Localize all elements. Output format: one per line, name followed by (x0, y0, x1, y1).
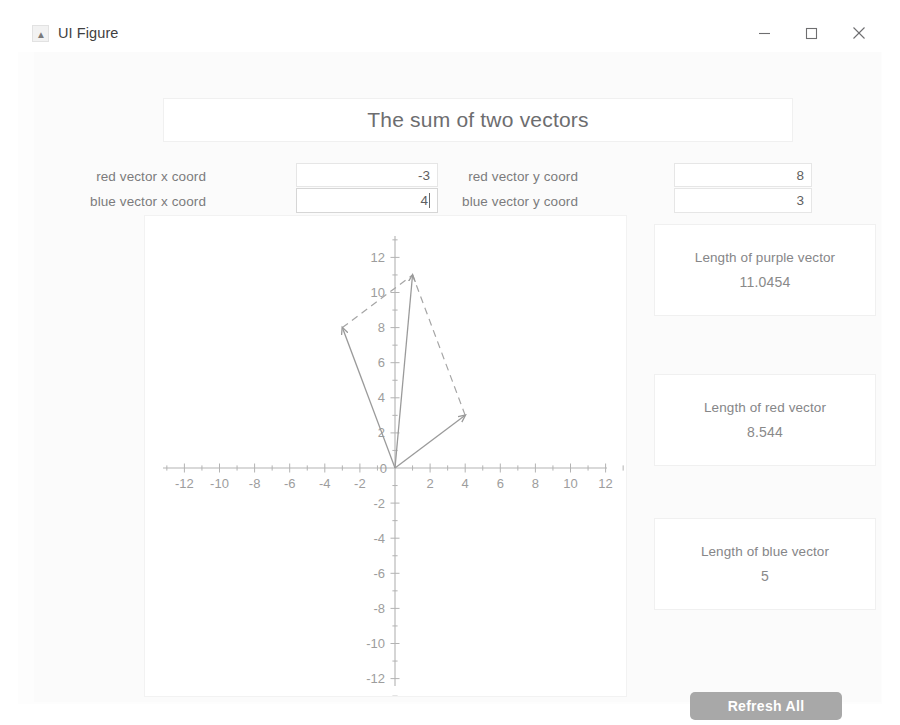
y-tick-label: -4 (373, 531, 385, 546)
window-title: UI Figure (58, 25, 119, 41)
parallel-to-red-dashed-line (413, 275, 466, 415)
y-tick-label: 8 (378, 320, 385, 335)
vector-plot-axes: -12-10-8-6-4-224681012-12-10-8-6-4-22468… (145, 216, 626, 696)
construction-lines (342, 275, 465, 415)
y-tick-label: -6 (373, 566, 385, 581)
label-blue-x: blue vector x coord (42, 194, 206, 209)
x-tick-label: -2 (354, 476, 366, 491)
origin-tick-label: 0 (380, 461, 387, 476)
y-tick-label: -10 (366, 636, 385, 651)
close-icon[interactable] (835, 14, 882, 52)
text-caret (429, 193, 430, 208)
input-blue-x-value: 4 (420, 193, 428, 208)
input-red-y[interactable]: 8 (674, 163, 812, 187)
x-tick-label: 8 (532, 476, 539, 491)
matlab-app-icon: ▲ (32, 25, 49, 42)
x-tick-label: -10 (210, 476, 229, 491)
result-value-blue: 5 (761, 568, 769, 584)
x-tick-label: -12 (175, 476, 194, 491)
window-controls (741, 14, 882, 52)
input-red-x[interactable]: -3 (296, 163, 438, 187)
y-tick-label: 4 (378, 390, 385, 405)
red-vector-arrow (342, 328, 395, 468)
x-tick-label: 2 (426, 476, 433, 491)
result-panel-blue: Length of blue vector 5 (654, 518, 876, 610)
y-tick-label: 12 (371, 250, 385, 265)
x-tick-label: -8 (249, 476, 261, 491)
maximize-icon[interactable] (788, 14, 835, 52)
x-tick-label: -4 (319, 476, 331, 491)
input-blue-y[interactable]: 3 (674, 188, 812, 213)
y-tick-label: -2 (373, 496, 385, 511)
input-blue-x[interactable]: 4 (296, 188, 438, 213)
blue-vector-arrow (395, 415, 465, 468)
x-tick-label: -6 (284, 476, 296, 491)
result-panel-purple: Length of purple vector 11.0454 (654, 224, 876, 316)
y-tick-label: -12 (366, 671, 385, 686)
ui-figure-window: ▲ UI Figure The sum of two vectors red v… (18, 14, 882, 704)
input-red-x-value: -3 (418, 168, 430, 183)
figure-canvas: The sum of two vectors red vector x coor… (34, 52, 881, 702)
matlab-app-icon-glyph: ▲ (35, 29, 47, 40)
y-tick-label: -8 (373, 601, 385, 616)
x-tick-label: 4 (462, 476, 469, 491)
y-tick-label: 6 (378, 355, 385, 370)
minimize-icon[interactable] (741, 14, 788, 52)
input-red-y-value: 8 (796, 168, 804, 183)
x-tick-label: 6 (497, 476, 504, 491)
result-label-blue: Length of blue vector (701, 544, 829, 559)
window-titlebar: ▲ UI Figure (18, 14, 882, 52)
purple-vector-arrow (395, 275, 413, 468)
input-blue-y-value: 3 (796, 193, 804, 208)
result-panel-red: Length of red vector 8.544 (654, 374, 876, 466)
vector-plot-panel[interactable]: -12-10-8-6-4-224681012-12-10-8-6-4-22468… (144, 215, 627, 697)
title-panel: The sum of two vectors (163, 98, 793, 142)
vector-arrows (342, 275, 465, 468)
x-tick-label: 12 (598, 476, 612, 491)
result-value-red: 8.544 (747, 424, 783, 440)
result-label-red: Length of red vector (704, 400, 826, 415)
label-red-x: red vector x coord (42, 169, 206, 184)
refresh-all-button[interactable]: Refresh All (690, 692, 842, 720)
result-label-purple: Length of purple vector (695, 250, 835, 265)
result-value-purple: 11.0454 (740, 274, 791, 290)
page-title: The sum of two vectors (367, 108, 588, 132)
x-tick-label: 10 (563, 476, 577, 491)
